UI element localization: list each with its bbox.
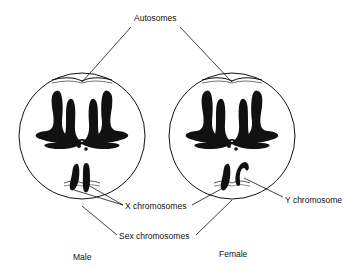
label-sex-chromosomes: Sex chromosomes — [119, 232, 189, 241]
female-cell — [169, 73, 295, 199]
caption-female: Female — [219, 250, 247, 259]
label-y-chromosome: Y chromosome — [285, 196, 342, 205]
male-cell — [19, 73, 145, 199]
label-x-chromosomes: X chromosomes — [125, 202, 186, 211]
caption-male: Male — [73, 253, 91, 262]
label-autosomes: Autosomes — [134, 14, 177, 23]
chromosome-diagram: Autosomes X chromosomes Y chromosome Sex… — [0, 0, 359, 271]
